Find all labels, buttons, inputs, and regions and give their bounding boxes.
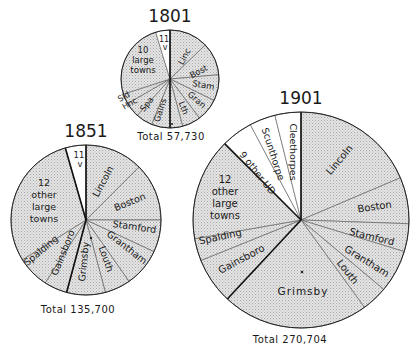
svg-text:12: 12 (38, 177, 50, 188)
dot-marker (301, 271, 304, 274)
slice-label-11v-b: v (163, 43, 168, 52)
pie-title-1901: 1901 (279, 88, 322, 108)
svg-text:towns: towns (210, 210, 240, 221)
pie-1801-slices (121, 30, 219, 128)
svg-text:12: 12 (219, 174, 232, 185)
svg-text:large: large (212, 198, 237, 209)
svg-text:towns: towns (130, 65, 156, 75)
svg-text:other: other (31, 189, 56, 200)
pie-total-1801: Total 57,730 (136, 131, 205, 142)
pie-1901: 1901 Cleethorpes Scunthorpe 9 other UD 1… (193, 88, 409, 345)
slice-label-grimsby: Grimsby (278, 285, 329, 297)
pie-total-1901: Total 270,704 (252, 334, 327, 345)
dot-marker (90, 237, 92, 239)
pie-title-1801: 1801 (148, 6, 191, 26)
svg-text:v: v (77, 159, 82, 169)
pie-title-1851: 1851 (64, 121, 107, 141)
svg-text:large: large (32, 201, 56, 212)
svg-text:towns: towns (30, 213, 58, 224)
pie-chart-comparison: 1801 11 v 10 large towns Linc Bost Stam … (0, 0, 411, 350)
slice-label-cleethorpes: Cleethorpes (288, 123, 299, 180)
dot-marker (171, 123, 173, 125)
slice-label-10-large-towns: 10 (138, 45, 149, 55)
pie-1851: 1851 11 v 12 other large towns Lincoln B… (11, 121, 161, 315)
pie-total-1851: Total 135,700 (40, 304, 115, 315)
pie-1801: 1801 11 v 10 large towns Linc Bost Stam … (116, 6, 219, 142)
svg-text:large: large (132, 55, 154, 65)
svg-text:other: other (212, 186, 240, 197)
